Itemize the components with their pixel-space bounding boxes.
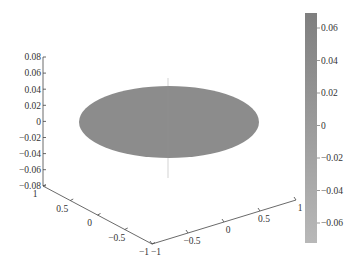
z-tick-label: −0.08 (19, 181, 41, 191)
surface-plot-figure: 0.080.060.040.020−0.02−0.04−0.06−0.08 10… (0, 0, 353, 266)
y-tick-label: −0.5 (108, 233, 125, 243)
z-axis: 0.080.060.040.020−0.02−0.04−0.06−0.08 (19, 52, 46, 191)
y-axis: 10.50−0.5−1 (33, 185, 155, 258)
colorbar-tick-label: 0.04 (321, 56, 338, 66)
colorbar-tick-label: −0.04 (321, 186, 343, 196)
z-tick-label: −0.04 (19, 149, 41, 159)
y-tick-label: 1 (33, 189, 38, 199)
z-tick-label: 0.08 (24, 52, 41, 62)
y-tick-label: 0 (87, 218, 92, 228)
y-tick-label: 0.5 (56, 204, 68, 214)
colorbar-tick-label: −0.02 (321, 153, 343, 163)
x-axis: −1−0.500.51 (150, 197, 303, 257)
figure-caption (60, 250, 320, 264)
z-tick-label: 0.04 (24, 85, 41, 95)
z-tick-label: 0.06 (24, 68, 41, 78)
x-tick-label: 0.5 (258, 214, 270, 224)
colorbar-tick-label: 0.02 (321, 88, 338, 98)
colorbar-tick-label: 0 (321, 121, 326, 131)
colorbar-tick-label: −0.06 (321, 218, 343, 228)
z-tick-label: −0.02 (19, 133, 41, 143)
z-tick-label: 0 (36, 117, 41, 127)
x-tick-label: 0 (226, 225, 231, 235)
z-tick-label: −0.06 (19, 165, 41, 175)
colorbar-tick-label: 0.06 (321, 23, 338, 33)
x-tick-label: 1 (298, 203, 303, 213)
disk-surface (79, 86, 259, 158)
x-tick-label: −0.5 (183, 236, 200, 246)
colorbar: 0.060.040.020−0.02−0.04−0.06 (305, 13, 343, 243)
z-tick-label: 0.02 (24, 101, 41, 111)
